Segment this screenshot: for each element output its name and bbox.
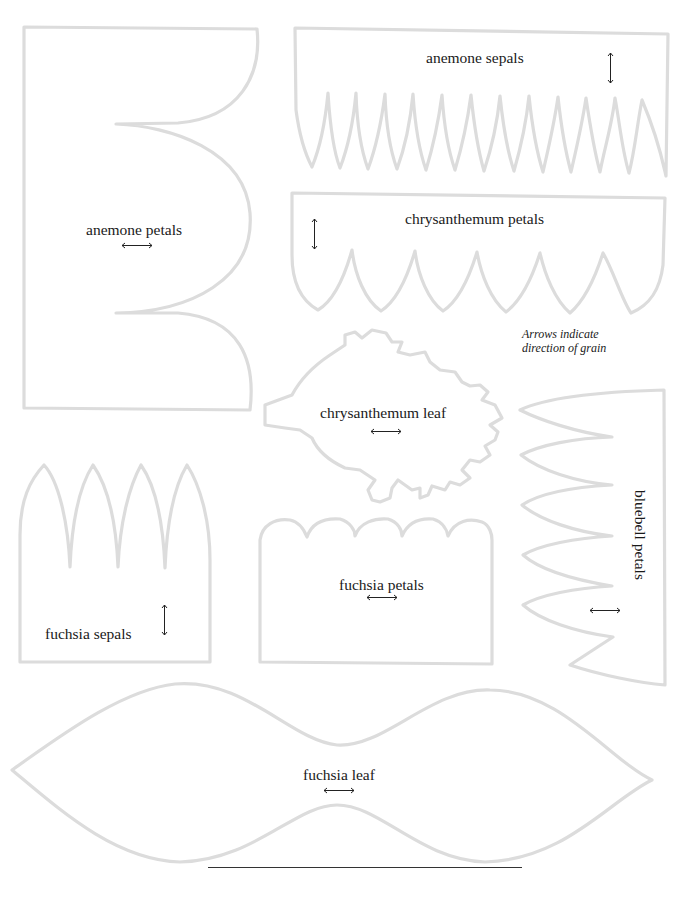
horizontal-arrow-icon [589,606,621,615]
grain-note-line2: direction of grain [522,341,606,355]
chrysanthemum-leaf-label: chrysanthemum leaf [320,405,446,421]
fuchsia-sepals-label: fuchsia sepals [45,626,132,642]
anemone-petals-outline [24,27,258,410]
chrysanthemum-petals-label: chrysanthemum petals [405,211,544,227]
anemone-petals-label: anemone petals [86,222,182,238]
vertical-arrow-icon [606,52,615,84]
vertical-arrow-icon [310,218,319,250]
horizontal-arrow-icon [366,593,398,602]
horizontal-arrow-icon [121,241,153,250]
bluebell-petals-label: bluebell petals [633,490,649,580]
horizontal-arrow-icon [323,786,355,795]
horizontal-arrow-icon [370,427,402,436]
grain-note-line1: Arrows indicate [522,327,606,341]
fuchsia-leaf-label: fuchsia leaf [303,767,375,783]
footer-rule [208,867,522,868]
vertical-arrow-icon [160,604,169,636]
fuchsia-petals-label: fuchsia petals [339,577,424,593]
anemone-sepals-label: anemone sepals [426,50,524,66]
grain-note: Arrows indicate direction of grain [522,327,606,355]
